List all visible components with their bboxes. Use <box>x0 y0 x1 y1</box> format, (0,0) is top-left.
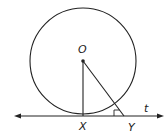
geometry-diagram: O X Y t <box>0 0 168 138</box>
label-x: X <box>78 120 87 133</box>
right-angle-mark-icon <box>114 110 120 116</box>
segment-oy <box>83 61 124 116</box>
label-y: Y <box>128 121 136 134</box>
arrowhead-left-icon <box>14 114 21 119</box>
arrowhead-right-icon <box>157 114 164 119</box>
label-o: O <box>78 43 87 56</box>
label-t: t <box>144 102 149 115</box>
center-point-o <box>81 59 85 63</box>
